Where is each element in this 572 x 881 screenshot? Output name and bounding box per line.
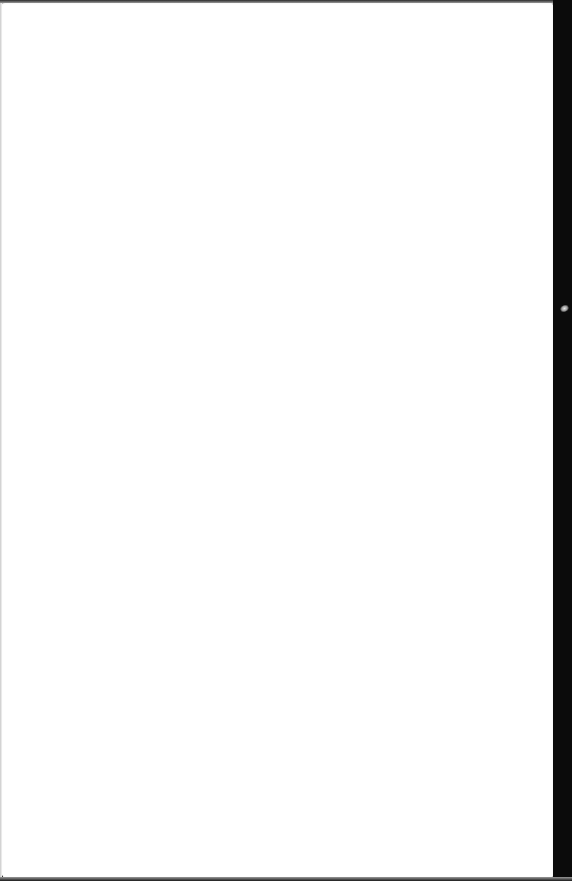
scanned-document [0,0,572,881]
left-page-edge [0,3,2,878]
bottom-scan-edge [0,877,572,881]
blank-page [1,3,553,878]
right-scan-border [553,0,572,881]
